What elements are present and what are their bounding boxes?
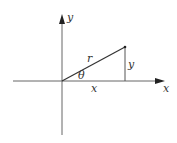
y-axis-label: y (66, 11, 74, 24)
y-axis-arrow-icon (59, 14, 65, 24)
opposite-label: y (127, 58, 135, 71)
polar-diagram: y x r θ y x (0, 0, 177, 143)
radius-line (62, 47, 125, 81)
x-axis-label: x (163, 82, 170, 95)
radius-label: r (87, 52, 93, 65)
adjacent-label: x (91, 82, 98, 95)
point-marker (124, 46, 127, 49)
angle-label: θ (78, 69, 85, 82)
